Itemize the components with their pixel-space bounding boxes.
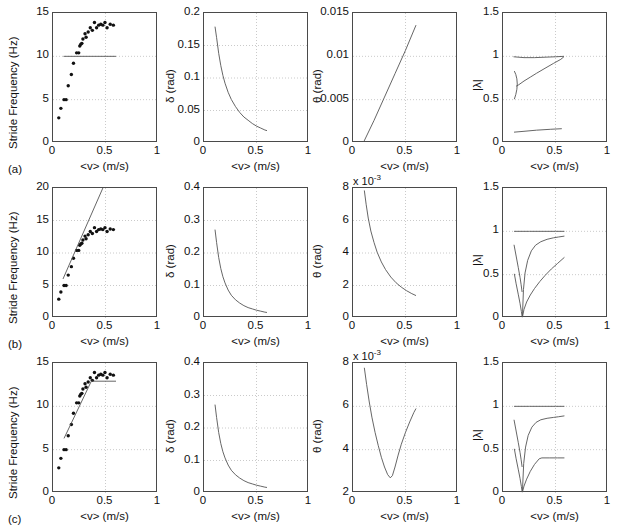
curve-series bbox=[522, 416, 564, 491]
ytick-label: 0.5 bbox=[483, 443, 499, 455]
figure-panel-grid: 05101500.51Stride Frequency (Hz)<v> (m/s… bbox=[0, 0, 631, 531]
y-axis-label: |λ| bbox=[472, 429, 484, 441]
curve-series bbox=[514, 420, 522, 467]
row-label-b: (b) bbox=[8, 339, 22, 351]
curve-series bbox=[514, 449, 522, 492]
x-axis-label: <v> (m/s) bbox=[492, 511, 617, 523]
xtick-label: 0.5 bbox=[540, 495, 570, 507]
ytick-label: 1 bbox=[493, 399, 499, 411]
row-label-a: (a) bbox=[8, 164, 22, 176]
ytick-label: 1.5 bbox=[483, 356, 499, 368]
panel-c4: 00.511.500.51|λ|<v> (m/s) bbox=[0, 0, 631, 531]
curve-series bbox=[522, 458, 564, 492]
row-label-c: (c) bbox=[8, 514, 21, 526]
plot-area-c4 bbox=[502, 362, 607, 492]
xtick-label: 0 bbox=[487, 495, 517, 507]
xtick-label: 1 bbox=[592, 495, 622, 507]
plot-canvas-c4 bbox=[503, 363, 608, 493]
